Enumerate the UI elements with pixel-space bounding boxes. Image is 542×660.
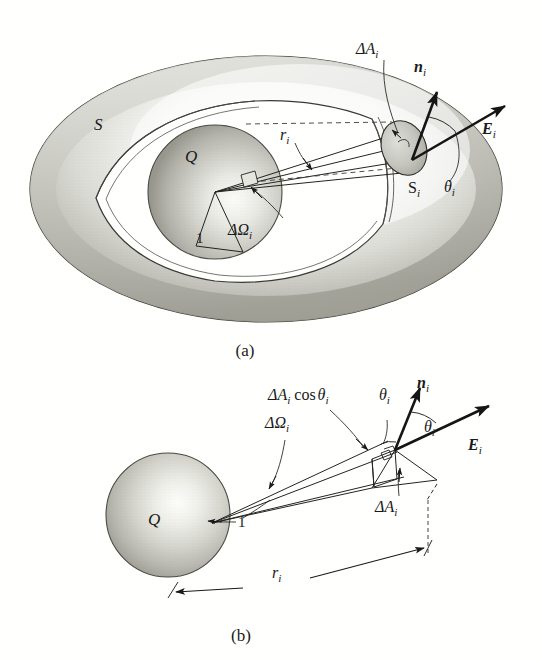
label-charge-q-a: Q: [185, 147, 197, 166]
label-charge-q-b: Q: [148, 510, 160, 529]
caption-a: (a): [236, 341, 255, 360]
figure-root: S Q 1 ri ΔΩi ΔAi ni Ei Si θi (a): [0, 0, 542, 660]
caption-b: (b): [231, 626, 251, 645]
unit-sphere-b: [106, 453, 230, 577]
label-surface-s: S: [94, 115, 103, 134]
label-unit-radius-a: 1: [196, 230, 204, 246]
label-unit-radius-b: 1: [238, 514, 246, 530]
physics-figure-canvas: S Q 1 ri ΔΩi ΔAi ni Ei Si θi (a): [0, 0, 542, 660]
unit-sphere-b-texture: [106, 453, 230, 577]
